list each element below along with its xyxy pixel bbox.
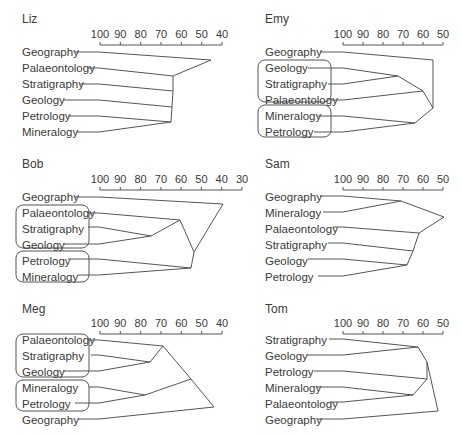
panel-title: Emy [265, 12, 289, 26]
tick-label: 50 [195, 173, 207, 185]
tick-label: 60 [175, 317, 187, 329]
leaf-label: Geography [265, 414, 322, 426]
leaf-label: Geography [265, 191, 322, 203]
axis: 100 90 80 70 60 50 [334, 28, 449, 45]
leaf-label: Geology [22, 94, 65, 106]
tick-label: 70 [397, 317, 409, 329]
axis: 100 90 80 70 60 50 [334, 317, 449, 334]
leaf-label: Stratigraphy [265, 334, 327, 346]
leaf-label: Mineralogy [22, 382, 78, 394]
leaf-label: Palaeontology [265, 398, 338, 410]
axis: 100 90 80 70 60 50 40 [91, 28, 228, 45]
leaf-label: Mineralogy [265, 382, 321, 394]
tree-lines [308, 52, 433, 132]
leaf-label: Geography [22, 46, 79, 58]
tick-label: 40 [216, 173, 228, 185]
tick-label: 70 [155, 317, 167, 329]
tick-label: 80 [135, 28, 147, 40]
tick-label: 70 [397, 173, 409, 185]
tree-lines [308, 196, 444, 276]
dendrogram-emy: Emy 100 90 80 70 60 50 Geography Geology… [258, 12, 449, 138]
tick-label: 60 [175, 173, 187, 185]
leaf-label: Palaeontology [265, 94, 338, 106]
tick-label: 100 [91, 28, 109, 40]
leaf-label: Palaeontology [265, 223, 338, 235]
tick-label: 60 [175, 28, 187, 40]
leaf-label: Stratigraphy [265, 239, 327, 251]
leaf-label: Petrology [265, 366, 314, 378]
leaf-label: Petrology [22, 398, 71, 410]
tick-label: 80 [377, 28, 389, 40]
axis: 100 90 80 70 60 50 40 30 [91, 173, 248, 190]
tick-label: 80 [377, 317, 389, 329]
leaf-label: Petrology [265, 271, 314, 283]
tick-label: 90 [114, 317, 126, 329]
tick-label: 90 [114, 173, 126, 185]
tick-label: 50 [196, 317, 208, 329]
leaf-label: Geography [22, 414, 79, 426]
tick-label: 50 [437, 173, 449, 185]
tick-label: 100 [334, 173, 352, 185]
leaf-label: Petrology [265, 126, 314, 138]
tick-label: 80 [377, 173, 389, 185]
panel-title: Sam [265, 157, 290, 171]
leaf-label: Geography [22, 191, 79, 203]
tick-label: 50 [196, 28, 208, 40]
leaf-label: Petrology [22, 110, 71, 122]
leaf-label: Geology [22, 366, 65, 378]
tick-label: 90 [357, 173, 369, 185]
dendrogram-meg: Meg 100 90 80 70 60 50 40 Palaeontology … [16, 302, 228, 426]
leaf-label: Palaeontology [22, 334, 95, 346]
axis: 100 90 80 70 60 50 40 [91, 317, 228, 334]
leaf-label: Mineralogy [265, 110, 321, 122]
tick-label: 100 [91, 173, 109, 185]
tick-label: 100 [334, 28, 352, 40]
tree-lines [63, 340, 214, 419]
leaf-label: Mineralogy [22, 271, 78, 283]
axis: 100 90 80 70 60 50 [334, 173, 449, 190]
dendrogram-bob: Bob 100 90 80 70 60 50 40 30 Geography P… [16, 157, 248, 283]
tick-label: 90 [357, 28, 369, 40]
leaf-label: Stratigraphy [22, 78, 84, 90]
dendrogram-tom: Tom 100 90 80 70 60 50 Stratigraphy Geol… [265, 302, 449, 426]
tick-label: 90 [114, 28, 126, 40]
leaf-label: Palaeontology [22, 62, 95, 74]
leaf-label: Mineralogy [22, 126, 78, 138]
panel-title: Liz [22, 12, 37, 26]
tick-label: 60 [417, 173, 429, 185]
tick-label: 60 [417, 317, 429, 329]
leaf-label: Mineralogy [265, 207, 321, 219]
tick-label: 70 [397, 28, 409, 40]
tick-label: 80 [135, 317, 147, 329]
tick-label: 50 [437, 28, 449, 40]
leaf-label: Geology [265, 62, 308, 74]
leaf-label: Stratigraphy [265, 78, 327, 90]
panel-title: Meg [22, 302, 45, 316]
tick-label: 100 [91, 317, 109, 329]
panel-title: Bob [22, 157, 44, 171]
leaf-label: Palaeontology [22, 207, 95, 219]
tick-label: 90 [357, 317, 369, 329]
tick-label: 60 [417, 28, 429, 40]
dendrogram-sam: Sam 100 90 80 70 60 50 Geography Mineral… [265, 157, 449, 283]
leaf-label: Stratigraphy [22, 350, 84, 362]
leaf-label: Geology [22, 239, 65, 251]
tick-label: 50 [437, 317, 449, 329]
tick-label: 30 [236, 173, 248, 185]
leaf-label: Stratigraphy [22, 223, 84, 235]
tick-label: 100 [334, 317, 352, 329]
leaf-label: Geology [265, 350, 308, 362]
tick-label: 70 [155, 28, 167, 40]
panel-title: Tom [265, 302, 288, 316]
leaf-label: Petrology [22, 255, 71, 267]
leaf-label: Geography [265, 46, 322, 58]
dendrogram-liz: Liz 100 90 80 70 60 50 40 Geography Pala… [22, 12, 228, 138]
tick-label: 40 [216, 28, 228, 40]
tick-label: 80 [134, 173, 146, 185]
tick-label: 40 [216, 317, 228, 329]
leaf-label: Geology [265, 255, 308, 267]
tick-label: 70 [155, 173, 167, 185]
